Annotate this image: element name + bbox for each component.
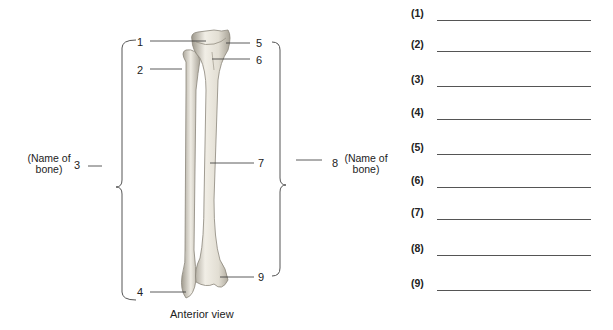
answer-number: (4) (411, 106, 424, 118)
answer-number: (3) (411, 73, 424, 85)
answer-number: (1) (411, 7, 424, 19)
answer-number: (9) (411, 277, 424, 289)
label-9: 9 (258, 272, 264, 283)
bone-name-left: (Name of bone) (24, 153, 74, 175)
answer-blank[interactable] (437, 219, 591, 220)
label-7: 7 (258, 158, 264, 169)
label-6: 6 (256, 55, 262, 66)
answer-row-4: (4) (411, 106, 591, 122)
answer-blank[interactable] (437, 51, 591, 52)
answer-row-6: (6) (411, 174, 591, 190)
answer-blank[interactable] (437, 20, 591, 21)
answer-number: (2) (411, 38, 424, 50)
answer-number: (8) (411, 242, 424, 254)
answer-number: (7) (411, 206, 424, 218)
label-5: 5 (256, 38, 262, 49)
label-2: 2 (137, 65, 143, 76)
answer-number: (6) (411, 174, 424, 186)
answer-blank[interactable] (437, 86, 591, 87)
answer-row-7: (7) (411, 206, 591, 222)
label-8: 8 (332, 158, 338, 169)
answer-row-1: (1) (411, 7, 591, 23)
bone-name-right: (Name of bone) (340, 153, 392, 175)
answer-row-3: (3) (411, 73, 591, 89)
answer-blank[interactable] (437, 154, 591, 155)
fibula (182, 50, 201, 298)
answer-blank[interactable] (437, 290, 591, 291)
left-bracket (116, 40, 136, 300)
answer-row-8: (8) (411, 242, 591, 258)
answer-blank[interactable] (437, 187, 591, 188)
label-4: 4 (137, 287, 143, 298)
figure-caption: Anterior view (170, 308, 234, 320)
label-3: 3 (74, 160, 80, 171)
answer-number: (5) (411, 141, 424, 153)
answer-blank[interactable] (437, 119, 591, 120)
label-1: 1 (137, 37, 143, 48)
answer-row-5: (5) (411, 141, 591, 157)
right-bracket (272, 42, 286, 276)
answer-row-2: (2) (411, 38, 591, 54)
answer-blank[interactable] (437, 255, 591, 256)
answer-row-9: (9) (411, 277, 591, 293)
